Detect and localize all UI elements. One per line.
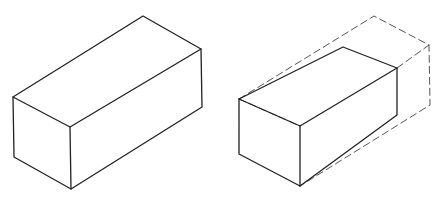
left-box-top-face — [13, 16, 201, 127]
right-box-dashed-top-edge — [397, 45, 429, 68]
right-box-side-face — [300, 68, 397, 186]
right-box — [239, 16, 430, 186]
left-box — [13, 16, 202, 189]
right-box-top-face — [239, 47, 397, 126]
figure-canvas — [0, 0, 442, 202]
left-box-front-face — [13, 97, 71, 189]
boxes-drawing — [0, 0, 442, 202]
left-box-side-face — [71, 49, 202, 189]
